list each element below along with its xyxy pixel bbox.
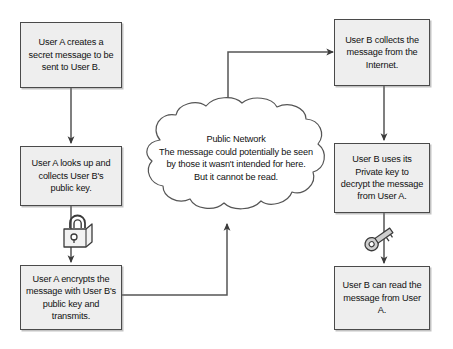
- node-user-a-creates-message[interactable]: User A creates a secret message to be se…: [20, 22, 122, 88]
- node-label: User B uses its Private key to decrypt t…: [340, 153, 424, 203]
- edge-n3-to-cloud: [122, 224, 227, 295]
- diagram-canvas: User A creates a secret message to be se…: [0, 0, 453, 349]
- node-user-a-collects-public-key[interactable]: User A looks up and collects User B's pu…: [20, 146, 122, 206]
- node-label: User B can read the message from User A.: [340, 279, 424, 316]
- cloud-label: Public Network The message could potenti…: [148, 133, 324, 183]
- padlock-icon: [64, 216, 92, 248]
- node-label: User A looks up and collects User B's pu…: [26, 157, 116, 194]
- node-user-b-reads-message[interactable]: User B can read the message from User A.: [334, 266, 430, 330]
- node-label: User A creates a secret message to be se…: [26, 36, 116, 73]
- node-user-b-decrypts-message[interactable]: User B uses its Private key to decrypt t…: [334, 143, 430, 213]
- node-label: User A encrypts the message with User B'…: [26, 273, 116, 323]
- node-user-b-collects-message[interactable]: User B collects the message from the Int…: [334, 19, 430, 86]
- node-user-a-encrypts-and-transmits[interactable]: User A encrypts the message with User B'…: [20, 265, 122, 330]
- key-icon: [362, 225, 395, 254]
- node-label: User B collects the message from the Int…: [340, 34, 424, 71]
